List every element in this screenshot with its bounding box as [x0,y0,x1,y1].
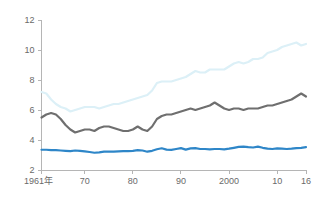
series-line-blue-series [42,147,307,153]
series-line-light-blue-series [42,43,307,112]
x-tick-label: 90 [176,176,186,186]
x-tick-label: 80 [128,176,138,186]
line-chart-figure: 24681012 1961年70809020001016 [0,0,313,200]
y-axis-group: 24681012 [24,15,41,175]
series-line-dark-gray-series [42,94,307,133]
x-axis-group: 1961年70809020001016 [24,170,311,186]
x-tick-label: 10 [272,176,282,186]
y-tick-label: 6 [29,105,34,115]
chart-plot-svg: 24681012 1961年70809020001016 [0,0,313,200]
y-tick-label: 4 [29,135,34,145]
y-tick-label: 8 [29,75,34,85]
y-axis-ticks: 24681012 [24,15,41,175]
y-tick-label: 10 [24,45,34,55]
x-axis-ticks: 1961年70809020001016 [24,170,311,186]
x-tick-label: 2000 [219,176,239,186]
data-series-layer [42,43,307,153]
x-tick-label: 1961年 [24,175,53,186]
y-tick-label: 12 [24,15,34,25]
x-tick-label: 16 [301,176,311,186]
x-tick-label: 70 [80,176,90,186]
y-tick-label: 2 [29,165,34,175]
